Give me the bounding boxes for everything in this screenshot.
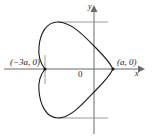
figure-canvas	[0, 0, 153, 140]
cusp-point	[111, 67, 114, 70]
x-axis-label: x	[135, 70, 139, 78]
left-vertex-point	[43, 67, 46, 70]
y-axis-label: y	[88, 3, 92, 11]
cardioid-curve	[39, 22, 113, 118]
right-point-label: (a, 0)	[117, 58, 137, 67]
origin-label: 0	[78, 70, 83, 79]
left-point-label: (−3a, 0)	[10, 58, 40, 67]
x-axis-arrow	[138, 66, 145, 73]
cardioid-figure: (−3a, 0) (a, 0) 0 y x	[0, 0, 153, 140]
